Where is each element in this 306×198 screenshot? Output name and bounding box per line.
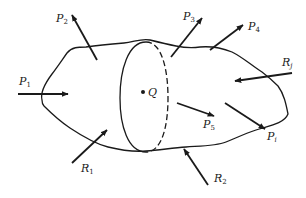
point-q-dot [141, 90, 145, 94]
label-pi: Pi [267, 131, 277, 144]
label-p3: P3 [183, 11, 195, 24]
arrow-p2 [72, 15, 97, 60]
section-ellipse-front [120, 42, 146, 152]
body-outline [42, 39, 288, 151]
diagram-canvas [0, 0, 306, 198]
label-rj: Rj [282, 57, 292, 70]
arrow-p4 [210, 25, 243, 50]
label-r2: R2 [214, 173, 227, 186]
label-q: Q [148, 87, 157, 98]
arrow-pi [225, 103, 265, 129]
arrow-rj [235, 73, 292, 81]
arrow-r2 [184, 149, 208, 185]
label-r1: R1 [81, 163, 94, 176]
label-p2: P2 [56, 13, 68, 26]
label-p4: P4 [248, 21, 260, 34]
free-body-diagram: Q P1 P2 P3 P4 P5 Pi Rj R1 R2 [0, 0, 306, 198]
label-p5: P5 [203, 119, 215, 132]
arrow-r1 [72, 130, 107, 163]
arrow-p5 [177, 103, 214, 116]
label-p1: P1 [19, 76, 31, 89]
